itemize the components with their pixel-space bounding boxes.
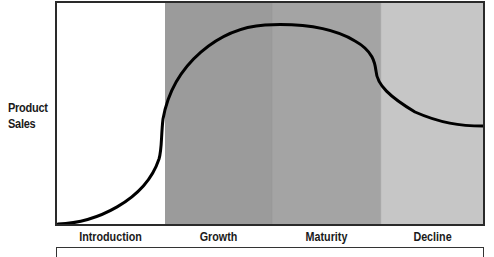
stage-band-decline xyxy=(381,2,484,225)
stage-band-introduction xyxy=(56,2,165,225)
stage-label-introduction: Introduction xyxy=(64,229,158,245)
next-panel-border xyxy=(56,247,484,257)
stage-labels: Introduction Growth Maturity Decline xyxy=(56,229,484,245)
y-axis-label-line-1: Product xyxy=(8,100,48,116)
life-cycle-chart xyxy=(55,1,485,226)
stage-label-maturity: Maturity xyxy=(280,229,374,245)
stage-band-growth xyxy=(165,2,272,225)
stage-label-decline: Decline xyxy=(388,229,477,245)
stage-band-maturity xyxy=(272,2,381,225)
y-axis-label: Product Sales xyxy=(8,100,48,132)
y-axis-label-line-2: Sales xyxy=(8,116,48,132)
stage-label-growth: Growth xyxy=(172,229,264,245)
